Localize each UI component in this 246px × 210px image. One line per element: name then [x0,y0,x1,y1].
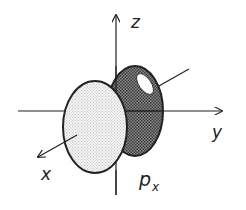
x-axis-label: x [40,164,52,184]
orbital-subscript: x [151,180,160,194]
z-axis-label: z [130,12,141,32]
px-orbital-diagram: z y x p x [0,0,246,210]
orbital-label: p [138,168,151,190]
front-lobe [63,81,127,173]
y-axis-label: y [211,122,223,142]
